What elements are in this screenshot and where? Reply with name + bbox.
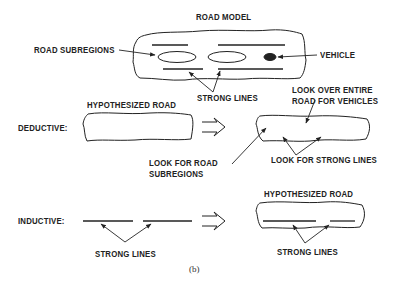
look-strong-lines-label: LOOK FOR STRONG LINES [271, 155, 377, 165]
inductive-output-title: HYPOTHESIZED ROAD [264, 189, 353, 199]
look-subregions-label-2: SUBREGIONS [149, 169, 203, 179]
look-subregions-label-1: LOOK FOR ROAD [149, 158, 218, 168]
strong-lines-label: STRONG LINES [197, 93, 258, 103]
vehicle-label: VEHICLE [320, 50, 355, 60]
deductive-input-label: HYPOTHESIZED ROAD [87, 100, 176, 110]
figure-caption: (b) [189, 264, 200, 274]
inductive-double-arrow-icon [202, 212, 225, 230]
inductive-output-label: STRONG LINES [277, 247, 338, 257]
deductive-double-arrow-icon [202, 118, 225, 136]
inductive-hypothesized-road-shape [256, 202, 364, 229]
figure-title: ROAD MODEL [196, 12, 251, 22]
look-vehicles-label-2: ROAD FOR VEHICLES [292, 96, 378, 106]
inductive-input-label: STRONG LINES [95, 249, 156, 259]
deductive-row-label: DEDUCTIVE: [18, 123, 68, 133]
look-vehicles-label-1: LOOK OVER ENTIRE [292, 85, 373, 95]
inductive-row-label: INDUCTIVE: [18, 216, 65, 226]
deductive-hypothesized-road-shape [83, 113, 193, 141]
inductive-strong-lines [83, 221, 192, 242]
road-subregions-label: ROAD SUBREGIONS [34, 45, 115, 55]
road-model-diagram [0, 0, 406, 287]
deductive-output-road-shape [256, 115, 370, 141]
road-model-pointers [119, 50, 317, 92]
